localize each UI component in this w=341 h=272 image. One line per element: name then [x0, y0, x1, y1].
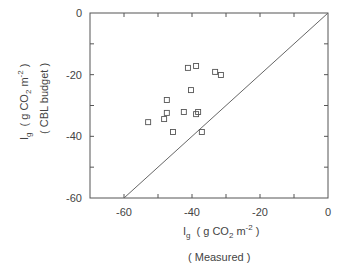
data-point-square-marker [199, 130, 204, 135]
data-point-square-marker [194, 64, 199, 69]
plot-frame [90, 13, 328, 198]
x-tick-label: -60 [116, 206, 132, 218]
data-point-square-marker [170, 130, 175, 135]
data-point-square-marker [181, 109, 186, 114]
one-to-one-line [124, 13, 328, 198]
y-axis-label: Ig( g CO2 m-2 ) [16, 64, 33, 140]
y-tick-label: -20 [66, 69, 82, 81]
y-tick-label: -40 [66, 130, 82, 142]
data-point-square-marker [188, 88, 193, 93]
data-point-square-marker [162, 117, 167, 122]
data-point-square-marker [146, 120, 151, 125]
y-tick-label: 0 [76, 7, 82, 19]
x-axis-label: Ig( g CO2 m-2 ) [183, 223, 259, 240]
x-tick-label: 0 [325, 206, 331, 218]
scatter-chart: -60-40-2000-20-40-60 Ig( g CO2 m-2 ) ( M… [0, 0, 341, 272]
data-points [146, 64, 224, 135]
data-point-square-marker [164, 97, 169, 102]
axis-ticks [90, 13, 328, 198]
data-point-square-marker [185, 65, 190, 70]
data-point-square-marker [164, 110, 169, 115]
x-axis-caption: ( Measured ) [188, 251, 250, 263]
x-tick-label: -20 [252, 206, 268, 218]
data-point-square-marker [218, 72, 223, 77]
y-axis-caption: ( CBL budget ) [38, 63, 50, 134]
x-tick-label: -40 [184, 206, 200, 218]
data-point-square-marker [213, 69, 218, 74]
y-tick-label: -60 [66, 192, 82, 204]
